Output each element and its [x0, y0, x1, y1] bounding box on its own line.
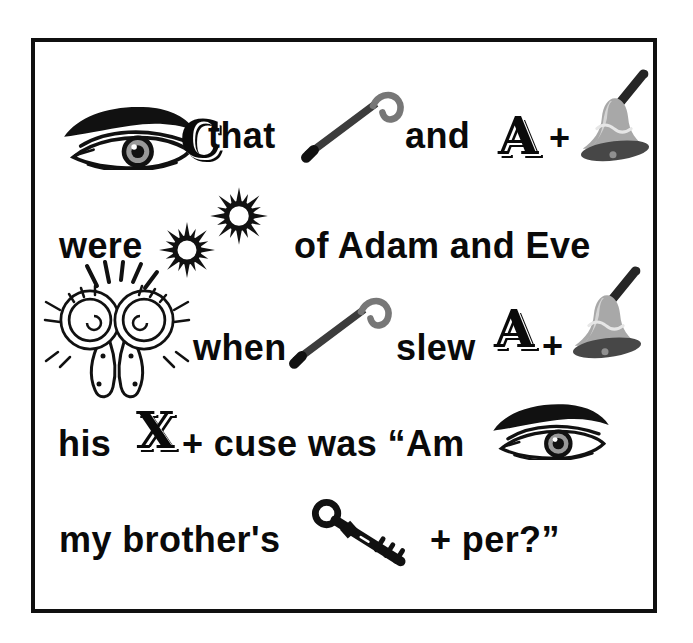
key-icon	[310, 498, 425, 570]
word-slew: slew	[396, 330, 476, 366]
cane-icon	[292, 87, 407, 167]
letter-a-1: A	[498, 110, 538, 162]
bell-icon	[568, 68, 662, 173]
letter-x: X	[136, 406, 175, 456]
phrase-per: + per?”	[430, 522, 560, 558]
puzzle-canvas: C that and A + were	[0, 0, 693, 643]
word-and: and	[405, 118, 470, 154]
eye-icon	[490, 398, 612, 460]
word-were: were	[59, 228, 143, 264]
letter-a-2: A	[494, 303, 534, 355]
phrase-my-brothers: my brother's	[59, 522, 280, 558]
word-his: his	[58, 426, 111, 462]
word-that: that	[208, 118, 276, 154]
bell-icon	[560, 265, 654, 370]
cane-icon	[280, 293, 395, 373]
word-when: when	[193, 330, 287, 366]
ram-heads-icon	[42, 260, 192, 405]
phrase-cuse-was-am: + cuse was “Am	[182, 426, 465, 462]
phrase-of-adam-and-eve: of Adam and Eve	[294, 228, 591, 264]
